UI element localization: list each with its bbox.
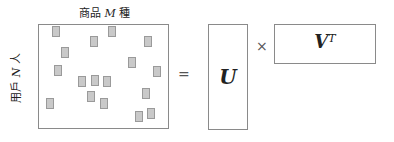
rating-cell: [103, 76, 111, 87]
vt-matrix: VT: [274, 24, 376, 64]
items-var-m: M: [105, 7, 116, 20]
items-title-text: 商品: [79, 7, 105, 20]
u-matrix-label: U: [209, 65, 247, 89]
rating-cell: [54, 65, 62, 76]
rating-cell: [78, 76, 86, 87]
rating-cell: [91, 75, 99, 86]
users-var-n: N: [10, 68, 23, 78]
rating-cell: [144, 36, 152, 47]
users-title-text: 用戶: [10, 77, 23, 103]
rating-cell: [135, 111, 143, 122]
rating-cell: [46, 98, 54, 109]
items-title-suffix: 種: [116, 7, 131, 20]
rating-cell: [128, 57, 136, 68]
equals-sign: =: [178, 66, 190, 82]
u-matrix: U: [208, 24, 248, 130]
rating-cell: [153, 66, 161, 77]
vt-matrix-label: VT: [275, 31, 375, 52]
times-sign: ×: [256, 38, 268, 54]
items-axis-title: 商品 M 種: [79, 4, 130, 20]
rating-cell: [61, 47, 69, 58]
rating-cell: [142, 88, 150, 99]
rating-cell: [90, 36, 98, 47]
rating-cell: [108, 26, 116, 37]
rating-cell: [100, 98, 108, 109]
rating-cell: [147, 108, 155, 119]
rating-cell: [87, 91, 95, 102]
v-label: V: [314, 31, 328, 52]
transpose-superscript: T: [328, 32, 335, 45]
users-title-suffix: 人: [10, 53, 23, 68]
rating-cell: [52, 26, 60, 37]
users-axis-title: 用戶 N 人: [7, 45, 23, 111]
